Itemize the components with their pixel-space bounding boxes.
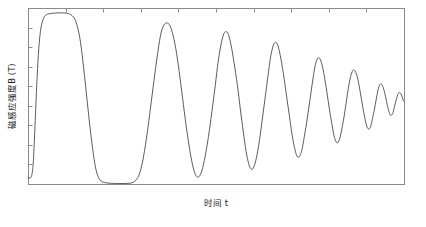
x-axis-label: 时间 t: [204, 198, 229, 208]
figure-background: [0, 0, 426, 227]
x-axis-label-text: 时间 t: [204, 198, 229, 208]
damped-oscillation-figure: 磁感应强度B (T) 时间 t: [0, 0, 426, 227]
y-axis-label: 磁感应强度B (T): [7, 63, 17, 128]
y-axis-label-text: 磁感应强度B (T): [7, 63, 17, 128]
